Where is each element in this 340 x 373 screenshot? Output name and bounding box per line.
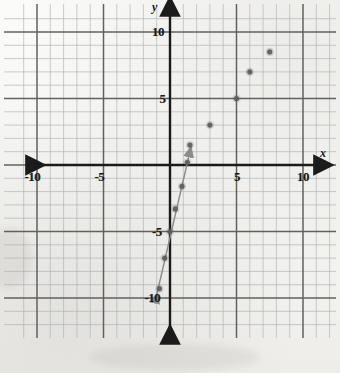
data-point: [173, 206, 178, 211]
data-point: [179, 184, 184, 189]
y-tick-label: 5: [160, 91, 166, 107]
data-point: [187, 142, 192, 147]
y-tick-label: -10: [145, 290, 161, 306]
data-point: [167, 229, 172, 234]
x-tick-label: 10: [297, 169, 309, 185]
y-tick-label: 10: [152, 24, 164, 40]
data-point: [247, 69, 252, 74]
x-tick-label: 5: [234, 169, 240, 185]
y-axis-name: y: [152, 0, 157, 15]
x-tick-label: -10: [25, 169, 41, 185]
data-point: [185, 160, 190, 165]
x-axis-name: x: [320, 146, 326, 161]
y-tick-label: -5: [152, 224, 162, 240]
data-point: [207, 123, 212, 128]
data-point: [234, 96, 239, 101]
axes: [30, 12, 318, 340]
coordinate-plot: [0, 0, 340, 373]
data-point: [162, 256, 167, 261]
data-point: [267, 49, 272, 54]
x-tick-label: -5: [95, 169, 105, 185]
data-point-group: [155, 48, 274, 293]
